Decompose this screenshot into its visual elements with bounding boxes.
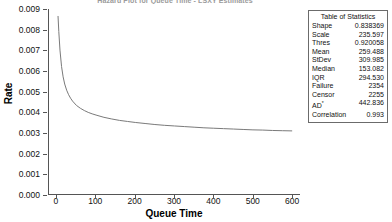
statistics-row: Correlation0.993 bbox=[311, 111, 385, 120]
statistics-row-key: StDev bbox=[312, 56, 331, 65]
y-axis-tick-mark bbox=[43, 133, 47, 134]
x-axis-tick-mark bbox=[56, 195, 57, 199]
x-axis-tick-mark bbox=[135, 195, 136, 199]
chart-title-text: Hazard Plot for Queue Time - LSXY Estima… bbox=[60, 0, 290, 4]
y-axis-tick-label: 0.000 bbox=[19, 191, 40, 200]
statistics-table-title: Table of Statistics bbox=[311, 12, 385, 22]
chart-screenshot: Hazard Plot for Queue Time - LSXY Estima… bbox=[0, 0, 392, 222]
asterisk-icon: * bbox=[322, 100, 324, 106]
y-axis-tick-mark bbox=[43, 50, 47, 51]
statistics-row-value: 0.993 bbox=[366, 111, 384, 120]
hazard-curve bbox=[58, 16, 292, 131]
statistics-table: Table of Statistics Shape0.838369Scale23… bbox=[308, 10, 388, 123]
y-axis-tick-label: 0.001 bbox=[19, 170, 40, 179]
statistics-row: Censor2255 bbox=[311, 91, 385, 100]
y-axis-tick-mark bbox=[43, 30, 47, 31]
y-axis-tick-mark bbox=[43, 71, 47, 72]
y-axis-tick-label: 0.009 bbox=[19, 5, 40, 14]
statistics-row-key: Correlation bbox=[312, 111, 346, 120]
statistics-row-key: Thres bbox=[312, 39, 330, 48]
plot-frame bbox=[48, 9, 300, 195]
x-axis-title: Queue Time bbox=[48, 208, 300, 219]
statistics-row-key: Failure bbox=[312, 82, 333, 91]
y-axis-tick-mark bbox=[43, 112, 47, 113]
y-axis-tick-label: 0.004 bbox=[19, 108, 40, 117]
y-axis-tick-label: 0.007 bbox=[19, 46, 40, 55]
statistics-row: Thres0.920058 bbox=[311, 39, 385, 48]
y-axis-title: Rate bbox=[3, 72, 14, 116]
statistics-row-key: Median bbox=[312, 65, 335, 74]
y-axis-tick-label: 0.002 bbox=[19, 149, 40, 158]
statistics-row-value: 2255 bbox=[368, 91, 384, 100]
y-axis-tick-mark bbox=[43, 92, 47, 93]
statistics-row-value: 442.836 bbox=[359, 99, 384, 111]
y-axis-tick-label: 0.003 bbox=[19, 129, 40, 138]
x-axis-tick-mark bbox=[292, 195, 293, 199]
statistics-row-key: IQR bbox=[312, 74, 324, 83]
y-axis-tick-label: 0.005 bbox=[19, 87, 40, 96]
y-axis-tick-label: 0.006 bbox=[19, 67, 40, 76]
statistics-row: Scale235.597 bbox=[311, 31, 385, 40]
x-axis-tick-mark bbox=[174, 195, 175, 199]
statistics-row-value: 153.082 bbox=[359, 65, 384, 74]
y-axis-tick-mark bbox=[43, 195, 47, 196]
statistics-row-key: Shape bbox=[312, 22, 332, 31]
y-axis-tick-mark bbox=[43, 174, 47, 175]
x-axis-tick-mark bbox=[213, 195, 214, 199]
statistics-row-value: 0.920058 bbox=[355, 39, 384, 48]
x-axis-tick-mark bbox=[253, 195, 254, 199]
statistics-row-value: 309.985 bbox=[359, 56, 384, 65]
statistics-table-body: Shape0.838369Scale235.597Thres0.920058Me… bbox=[311, 22, 385, 120]
statistics-row-value: 2354 bbox=[368, 82, 384, 91]
y-axis-tick-mark bbox=[43, 9, 47, 10]
x-axis-tick-mark bbox=[95, 195, 96, 199]
statistics-row-value: 235.597 bbox=[359, 31, 384, 40]
statistics-row: Shape0.838369 bbox=[311, 22, 385, 31]
statistics-row: IQR294.530 bbox=[311, 74, 385, 83]
statistics-row-key: Scale bbox=[312, 31, 330, 40]
y-axis-tick-mark bbox=[43, 154, 47, 155]
statistics-row: AD*442.836 bbox=[311, 99, 385, 111]
plot-canvas bbox=[49, 9, 300, 194]
statistics-row-value: 0.838369 bbox=[355, 22, 384, 31]
statistics-row: StDev309.985 bbox=[311, 56, 385, 65]
statistics-row: Median153.082 bbox=[311, 65, 385, 74]
statistics-row-key: AD* bbox=[312, 99, 324, 111]
statistics-row: Failure2354 bbox=[311, 82, 385, 91]
y-axis-tick-label: 0.008 bbox=[19, 25, 40, 34]
statistics-row-key: Mean bbox=[312, 48, 330, 57]
statistics-row: Mean259.488 bbox=[311, 48, 385, 57]
chart-title-cropped: Hazard Plot for Queue Time - LSXY Estima… bbox=[60, 0, 290, 4]
statistics-row-value: 294.530 bbox=[359, 74, 384, 83]
statistics-row-value: 259.488 bbox=[359, 48, 384, 57]
statistics-row-key: Censor bbox=[312, 91, 335, 100]
